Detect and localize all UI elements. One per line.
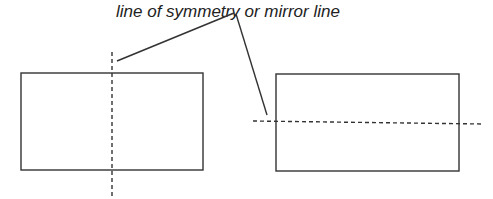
leader-line-left bbox=[117, 13, 234, 61]
symmetry-diagram bbox=[0, 0, 493, 199]
leader-line-right bbox=[236, 14, 267, 115]
horizontal-mirror-line bbox=[253, 121, 483, 124]
